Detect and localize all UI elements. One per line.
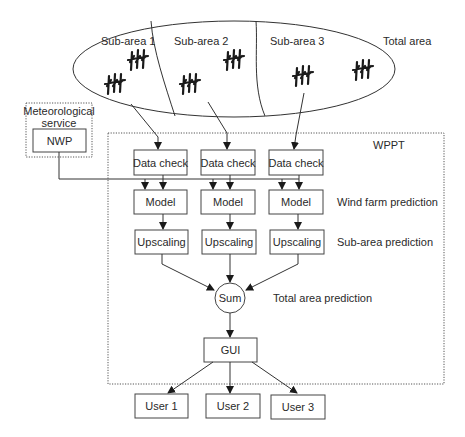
wind-turbine-icon bbox=[293, 66, 313, 86]
meteorological-service: Meteorological service NWP bbox=[23, 103, 95, 157]
wind-turbine-icons bbox=[105, 50, 373, 94]
data-check-label: Data check bbox=[200, 157, 256, 169]
wind-turbine-icon bbox=[180, 74, 200, 94]
wind-turbine-icon bbox=[353, 60, 373, 80]
wppt-column-2: Data check Model Upscaling bbox=[200, 150, 256, 254]
sum-label: Sum bbox=[219, 292, 242, 304]
nwp-label: NWP bbox=[47, 135, 73, 147]
upscaling-label: Upscaling bbox=[205, 236, 253, 248]
wind-turbine-icon bbox=[128, 50, 148, 70]
met-service-label-line2: service bbox=[42, 117, 77, 129]
total-area-region: Sub-area 1 Sub-area 2 Sub-area 3 Total a… bbox=[73, 21, 432, 117]
gui-node: GUI bbox=[204, 338, 257, 362]
wppt-column-3: Data check Model Upscaling bbox=[268, 150, 324, 254]
sum-node: Sum bbox=[215, 283, 245, 313]
user-2-label: User 2 bbox=[217, 400, 249, 412]
wppt-label: WPPT bbox=[373, 139, 405, 151]
sub-area-2-label: Sub-area 2 bbox=[174, 35, 228, 47]
total-area-prediction-label: Total area prediction bbox=[273, 292, 372, 304]
wind-turbine-icon bbox=[105, 74, 125, 94]
sub-area-divider-2 bbox=[256, 21, 265, 116]
wppt-column-1: Data check Model Upscaling bbox=[133, 150, 189, 254]
sub-area-1-label: Sub-area 1 bbox=[101, 35, 155, 47]
model-label: Model bbox=[146, 196, 176, 208]
wind-farm-prediction-label: Wind farm prediction bbox=[337, 196, 438, 208]
user-2-box: User 2 bbox=[206, 394, 260, 418]
sub-area-prediction-label: Sub-area prediction bbox=[337, 236, 433, 248]
upscaling-label: Upscaling bbox=[137, 236, 185, 248]
input-arrows bbox=[131, 93, 304, 149]
wppt-architecture-diagram: Sub-area 1 Sub-area 2 Sub-area 3 Total a… bbox=[0, 0, 465, 437]
model-label: Model bbox=[281, 196, 311, 208]
sub-area-3-label: Sub-area 3 bbox=[270, 35, 324, 47]
total-area-label: Total area bbox=[383, 35, 432, 47]
gui-label: GUI bbox=[221, 344, 241, 356]
model-label: Model bbox=[213, 196, 243, 208]
upscaling-label: Upscaling bbox=[273, 236, 321, 248]
user-3-box: User 3 bbox=[271, 395, 325, 419]
wind-turbine-icon bbox=[224, 50, 244, 70]
met-service-label-line1: Meteorological bbox=[23, 105, 95, 117]
data-check-label: Data check bbox=[268, 157, 324, 169]
user-1-box: User 1 bbox=[135, 394, 188, 418]
data-check-label: Data check bbox=[133, 157, 189, 169]
user-3-label: User 3 bbox=[282, 401, 314, 413]
user-1-label: User 1 bbox=[145, 400, 177, 412]
user-output-arrows bbox=[168, 362, 297, 393]
